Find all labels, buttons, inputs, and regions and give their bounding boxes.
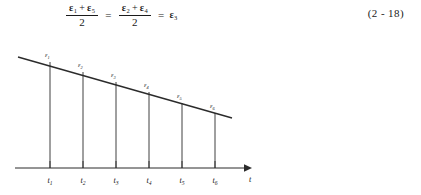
epsilon-subscript: 4	[146, 85, 149, 90]
tick-label-5: t5	[179, 176, 184, 186]
epsilon-subscript: 5	[92, 7, 95, 14]
t-axis-arrowhead	[244, 164, 252, 172]
equation-row: ε1+ε5 2 = ε2+ε4 2 = ε3 (2 - 18)	[0, 0, 421, 40]
epsilon-label-4: ε4	[144, 81, 149, 90]
epsilon-label-6: ε6	[210, 102, 215, 111]
epsilon-subscript: 4	[145, 7, 148, 14]
epsilon-4-term: ε4	[140, 2, 148, 13]
epsilon-subscript: 2	[80, 65, 83, 70]
epsilon-symbol: ε	[87, 2, 91, 13]
equals-sign-second: =	[158, 10, 164, 21]
t-axis-label: t	[249, 175, 252, 184]
t-subscript: 5	[182, 180, 185, 186]
t-subscript: 1	[50, 180, 53, 186]
tick-label-3: t3	[113, 176, 118, 186]
epsilon-1-term: ε1	[69, 2, 77, 13]
tick-label-1: t1	[47, 176, 52, 186]
epsilon-subscript: 1	[47, 55, 49, 60]
epsilon-symbol: ε	[140, 2, 144, 13]
tick-label-2: t2	[80, 176, 85, 186]
epsilon-label-2: ε2	[78, 61, 83, 70]
epsilon-subscript: 2	[127, 7, 130, 14]
epsilon-symbol: ε	[122, 2, 126, 13]
right-fraction-denominator: 2	[129, 16, 141, 28]
plus-operator: +	[132, 2, 138, 13]
epsilon-subscript: 3	[174, 14, 177, 21]
t-subscript: 3	[115, 180, 119, 186]
left-fraction-numerator: ε1+ε5	[66, 3, 98, 15]
equation-number: (2 - 18)	[368, 7, 404, 19]
epsilon-2-term: ε2	[122, 2, 130, 13]
figure-diagram: ε1 ε2 ε3 ε4 ε5 ε6 t1 t2 t3 t4 t5	[0, 40, 421, 195]
epsilon-subscript: 5	[179, 96, 182, 101]
epsilon-label-5: ε5	[177, 92, 182, 101]
epsilon-subscript: 3	[113, 75, 116, 80]
t-subscript: 2	[83, 180, 86, 186]
tick-label-6: t6	[212, 176, 217, 186]
tick-label-4: t4	[146, 176, 151, 186]
epsilon-3-result: ε3	[169, 10, 177, 21]
epsilon-5-term: ε5	[87, 2, 95, 13]
right-fraction-numerator: ε2+ε4	[119, 3, 151, 15]
display-equation: ε1+ε5 2 = ε2+ε4 2 = ε3	[64, 3, 177, 28]
epsilon-label-3: ε3	[111, 71, 116, 80]
epsilon-subscript: 6	[212, 106, 215, 111]
left-fraction-denominator: 2	[76, 16, 88, 28]
t-subscript: 6	[215, 180, 218, 186]
equals-sign-first: =	[105, 10, 111, 21]
epsilon-label-1: ε1	[45, 51, 50, 60]
epsilon-symbol: ε	[69, 2, 73, 13]
right-fraction: ε2+ε4 2	[119, 3, 151, 28]
epsilon-subscript: 1	[74, 7, 77, 14]
left-fraction: ε1+ε5 2	[66, 3, 98, 28]
plus-operator: +	[79, 2, 85, 13]
t-subscript: 4	[149, 180, 152, 186]
